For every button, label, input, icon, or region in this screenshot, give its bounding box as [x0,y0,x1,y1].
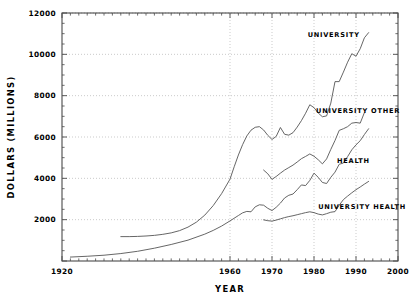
y-tick-label: 4000 [34,174,56,183]
series-line [264,181,369,221]
series-label: UNIVERSITY HEALTH [318,203,406,211]
y-tick-label: 12000 [29,9,56,18]
series-label: UNIVERSITY [308,31,360,39]
x-tick-label: 1960 [219,267,241,276]
series-label: HEALTH [337,157,370,165]
series-labels-group: UNIVERSITYHEALTHUNIVERSITY OTHERUNIVERSI… [308,31,406,211]
series-line [70,129,368,257]
y-tick-label: 2000 [34,215,56,224]
series-paths-group [70,33,368,257]
x-tick-label: 1970 [261,267,283,276]
y-tick-label: 8000 [34,91,56,100]
x-tick-label: 2000 [387,267,409,276]
gridlines-group [63,13,397,260]
series-label: UNIVERSITY OTHER [316,107,400,115]
line-chart-figure: 2000400060008000100001200019201960197019… [0,0,413,297]
y-tick-label: 6000 [34,133,56,142]
tick-labels-group: 2000400060008000100001200019201960197019… [29,9,409,276]
x-tick-label: 1980 [303,267,325,276]
y-tick-label: 10000 [29,50,56,59]
x-tick-label: 1990 [345,267,367,276]
x-tick-label: 1920 [51,267,73,276]
x-axis-title: YEAR [214,284,245,294]
chart-svg: 2000400060008000100001200019201960197019… [0,0,413,297]
y-axis-title: DOLLARS (MILLIONS) [6,75,16,198]
